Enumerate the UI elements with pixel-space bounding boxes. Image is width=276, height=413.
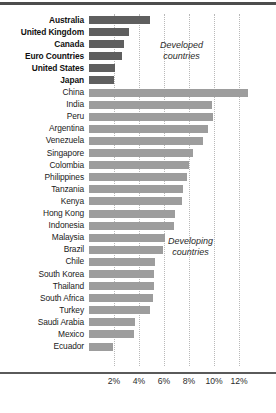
bar-track (89, 183, 276, 195)
bar-ecuador (89, 343, 113, 351)
bar-australia (89, 16, 150, 24)
category-label-hong-kong: Hong Kong (0, 209, 89, 218)
bar-row: Turkey (0, 304, 276, 316)
bar-thailand (89, 282, 154, 290)
category-label-mexico: Mexico (0, 330, 89, 339)
x-axis-rule (0, 372, 276, 374)
bar-brazil (89, 246, 163, 254)
x-tick-label: 6% (158, 376, 170, 386)
bar-track (89, 268, 276, 280)
x-tick-label: 8% (183, 376, 195, 386)
bar-track (89, 123, 276, 135)
bar-row: Australia (0, 14, 276, 26)
bar-united-kingdom (89, 28, 129, 36)
bar-malaysia (89, 234, 165, 242)
category-label-ecuador: Ecuador (0, 342, 89, 351)
bar-row: Canada (0, 38, 276, 50)
annotation-developing-line1: Developing (168, 236, 213, 247)
category-label-united-states: United States (0, 64, 89, 73)
bar-row: China (0, 87, 276, 99)
category-label-malaysia: Malaysia (0, 233, 89, 242)
bar-singapore (89, 149, 193, 157)
bar-row: Thailand (0, 280, 276, 292)
bar-row: Singapore (0, 147, 276, 159)
category-label-australia: Australia (0, 16, 89, 25)
annotation-developing-line2: countries (168, 247, 213, 258)
category-label-singapore: Singapore (0, 149, 89, 158)
bar-track (89, 159, 276, 171)
bar-tanzania (89, 185, 183, 193)
bar-row: Tanzania (0, 183, 276, 195)
category-label-india: India (0, 100, 89, 109)
annotation-developed-line2: countries (160, 51, 203, 62)
x-tick-label: 2% (108, 376, 120, 386)
annotation-developing-countries: Developing countries (168, 236, 213, 258)
category-label-chile: Chile (0, 257, 89, 266)
bar-row: Chile (0, 256, 276, 268)
category-label-china: China (0, 88, 89, 97)
category-label-canada: Canada (0, 40, 89, 49)
bar-track (89, 135, 276, 147)
bar-china (89, 89, 248, 97)
bar-track (89, 292, 276, 304)
bar-track (89, 208, 276, 220)
bar-kenya (89, 197, 182, 205)
category-label-indonesia: Indonesia (0, 221, 89, 230)
bar-track (89, 195, 276, 207)
bar-row: Peru (0, 111, 276, 123)
bar-track (89, 328, 276, 340)
bar-turkey (89, 306, 150, 314)
bar-track (89, 220, 276, 232)
bar-japan (89, 76, 114, 84)
bar-canada (89, 40, 124, 48)
bar-row: India (0, 99, 276, 111)
bar-row: South Korea (0, 268, 276, 280)
bar-chile (89, 258, 155, 266)
bar-track (89, 111, 276, 123)
category-label-brazil: Brazil (0, 245, 89, 254)
bar-track (89, 280, 276, 292)
bar-row: United States (0, 62, 276, 74)
category-label-united-kingdom: United Kingdom (0, 28, 89, 37)
bar-mexico (89, 330, 134, 338)
bar-track (89, 87, 276, 99)
category-label-turkey: Turkey (0, 306, 89, 315)
bar-row: Brazil (0, 244, 276, 256)
category-label-euro-countries: Euro Countries (0, 52, 89, 61)
category-label-japan: Japan (0, 76, 89, 85)
bar-row: Saudi Arabia (0, 316, 276, 328)
plot-area: AustraliaUnited KingdomCanadaEuro Countr… (0, 14, 276, 366)
bar-row: Colombia (0, 159, 276, 171)
category-label-kenya: Kenya (0, 197, 89, 206)
category-label-philippines: Philippines (0, 173, 89, 182)
bar-row: South Africa (0, 292, 276, 304)
bar-philippines (89, 173, 187, 181)
bar-track (89, 171, 276, 183)
bar-row: Indonesia (0, 220, 276, 232)
category-label-saudi-arabia: Saudi Arabia (0, 318, 89, 327)
category-label-thailand: Thailand (0, 282, 89, 291)
bar-south-africa (89, 294, 153, 302)
x-tick-label: 10% (205, 376, 222, 386)
bar-track (89, 316, 276, 328)
annotation-developed-line1: Developed (160, 40, 203, 51)
bar-track (89, 99, 276, 111)
bar-row: Hong Kong (0, 208, 276, 220)
bar-track (89, 304, 276, 316)
category-label-tanzania: Tanzania (0, 185, 89, 194)
annotation-developed-countries: Developed countries (160, 40, 203, 62)
bar-united-states (89, 64, 115, 72)
category-label-argentina: Argentina (0, 124, 89, 133)
bar-venezuela (89, 137, 203, 145)
bar-track (89, 62, 276, 74)
category-label-peru: Peru (0, 112, 89, 121)
bar-row: Japan (0, 74, 276, 86)
bar-rows: AustraliaUnited KingdomCanadaEuro Countr… (0, 14, 276, 353)
bar-euro-countries (89, 52, 122, 60)
bar-argentina (89, 125, 208, 133)
x-tick-label: 4% (133, 376, 145, 386)
bar-row: Ecuador (0, 341, 276, 353)
bar-peru (89, 113, 213, 121)
bar-row: Venezuela (0, 135, 276, 147)
category-label-colombia: Colombia (0, 161, 89, 170)
